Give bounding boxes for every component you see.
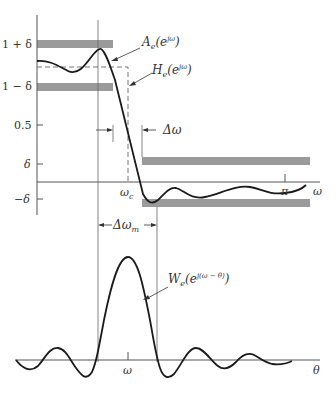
filter-window-diagram: 1 + δ 1 − δ 0.5 δ −δ ωc π ω Ae(ejω) He(e…	[0, 0, 336, 394]
label-neg-delta: −δ	[14, 193, 30, 206]
label-window-spectrum: We(ej(ω − θ))	[168, 272, 230, 288]
label-delta: δ	[24, 158, 31, 171]
arrowhead-icon	[151, 223, 157, 227]
arrowhead-icon	[142, 128, 148, 132]
label-ideal-response: He(ejω)	[151, 63, 192, 79]
window-spectrum-curve	[16, 257, 292, 377]
stopband-lower-tolerance-band	[142, 199, 310, 207]
arrowhead-icon	[129, 81, 136, 86]
label-pi: π	[280, 185, 289, 198]
label-theta-axis: θ	[313, 364, 320, 377]
label-omega-tick: ω	[123, 364, 132, 377]
passband-upper-tolerance-band	[37, 40, 113, 48]
label-approx-response: Ae(ejω)	[141, 35, 180, 51]
arrowhead-icon	[111, 57, 118, 61]
label-one-plus-delta: 1 + δ	[2, 38, 32, 51]
label-delta-omega: Δω	[162, 123, 182, 137]
label-one-minus-delta: 1 − δ	[2, 80, 32, 93]
arrowhead-icon	[98, 223, 104, 227]
arrowhead-icon	[107, 128, 113, 132]
stopband-upper-tolerance-band	[142, 157, 310, 165]
label-delta-omega-m: Δωm	[112, 218, 139, 234]
label-half: 0.5	[14, 119, 32, 132]
label-omega-axis: ω	[313, 185, 322, 198]
passband-lower-tolerance-band	[37, 83, 113, 91]
label-omega-c: ωc	[120, 186, 134, 201]
arrowhead-icon	[143, 295, 150, 300]
approx-label-pointer	[114, 48, 140, 60]
